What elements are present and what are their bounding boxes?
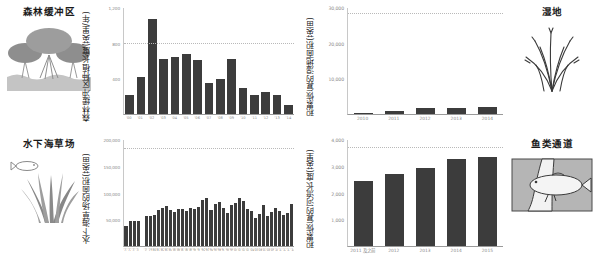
illustration-fish-passage: 鱼类通道 <box>503 132 601 265</box>
y-tick-label: 1,000 <box>331 218 344 223</box>
gridline <box>124 43 294 44</box>
bar-slot <box>192 8 203 114</box>
x-tick-label: 2014 <box>441 247 472 261</box>
panel-forest-buffer: 森林缓冲区 森林缓冲区种植长度(英里/年) <box>0 0 300 133</box>
bar-slot <box>348 140 379 246</box>
bar <box>148 19 157 114</box>
bar-slot <box>135 8 146 114</box>
bar-slot <box>290 140 294 246</box>
x-tick-label: 2012 <box>378 247 409 261</box>
y-tick-label: 30,000 <box>329 6 344 11</box>
x-tick-label: '10 <box>237 115 248 129</box>
bar <box>385 111 404 114</box>
bar <box>125 95 134 114</box>
bar <box>171 57 180 114</box>
x-tick-label: '14 <box>290 247 294 261</box>
bar <box>182 54 191 114</box>
x-tick-label: '09 <box>226 115 237 129</box>
y-axis-title-seagrass: 水下海草场的面积(英亩) <box>76 132 98 265</box>
panel-wetland: 积累恢复的湿地面积(英亩) 10,00020,00030,000 2010201… <box>300 0 601 133</box>
bar-slot <box>410 8 441 114</box>
x-tick-label: '06 <box>191 115 202 129</box>
y-tick-label: 800 <box>112 41 120 46</box>
y-axis-title-forest-buffer: 森林缓冲区种植长度(英里/年) <box>76 0 98 133</box>
bar <box>447 159 466 246</box>
bar-slot <box>260 8 271 114</box>
bar-slot <box>379 8 410 114</box>
y-axis-labels-seagrass: 50,000100,000150,000200,000 <box>98 140 122 247</box>
chart-forest-buffer: 森林缓冲区种植长度(英里/年) 4008001,200 '00'01'02'03… <box>76 0 296 133</box>
illustration-wetland: 湿地 <box>503 0 601 133</box>
x-tick-label: 2012 <box>409 115 440 129</box>
bar <box>354 181 373 246</box>
x-tick-label: '01 <box>134 115 145 129</box>
x-tick-label: 2011 <box>378 115 409 129</box>
x-tick-label: '05 <box>180 115 191 129</box>
y-tick-label: 400 <box>112 77 120 82</box>
y-axis-title-fish-passage: 积累恢复的河流长度(英里) <box>300 132 322 265</box>
y-axis-labels-wetland: 10,00020,00030,000 <box>322 8 346 115</box>
x-tick-label: '14 <box>283 115 294 129</box>
illustration-title-fish-passage: 鱼类通道 <box>503 132 601 149</box>
bar-slot <box>441 8 472 114</box>
y-tick-label: 200,000 <box>103 138 120 143</box>
y-tick-label: 2,000 <box>331 191 344 196</box>
x-tick-label: 2011 及之前 <box>347 247 378 261</box>
gridline <box>124 148 294 149</box>
illustration-title-wetland: 湿地 <box>503 0 601 17</box>
x-tick-label: 2013 <box>409 247 440 261</box>
bar-slot <box>379 140 410 246</box>
bar <box>159 59 168 114</box>
x-axis-labels-wetland: 20102011201220132014 <box>347 115 503 129</box>
bar-slot <box>410 140 441 246</box>
plot-area-fish-passage <box>347 140 503 247</box>
bar <box>416 108 435 114</box>
bar <box>261 92 270 114</box>
infographic-page: 森林缓冲区 森林缓冲区种植长度(英里/年) <box>0 0 601 265</box>
y-tick-label: 1,200 <box>109 6 121 11</box>
bar-slot <box>348 8 379 114</box>
x-tick-label: 2015 <box>472 247 503 261</box>
bar <box>227 59 236 114</box>
plot-area-seagrass <box>123 140 294 247</box>
bar <box>250 95 259 114</box>
bar-slot <box>472 8 503 114</box>
x-axis-labels-seagrass: '71'72'73'74'78'79'80'81'82'83'84'85'86'… <box>123 247 294 261</box>
bar-series-forest-buffer <box>124 8 294 114</box>
bar-slot <box>215 8 226 114</box>
x-tick-label: '11 <box>248 115 259 129</box>
x-tick-label: '12 <box>260 115 271 129</box>
bar <box>273 95 282 114</box>
bar-slot <box>147 8 158 114</box>
x-tick-label: '07 <box>203 115 214 129</box>
bar <box>216 79 225 114</box>
x-tick-label: '03 <box>157 115 168 129</box>
bar-slot <box>124 8 135 114</box>
y-tick-label: 20,000 <box>329 41 344 46</box>
x-tick-label: '08 <box>214 115 225 129</box>
y-tick-label: 50,000 <box>106 218 120 223</box>
y-tick-label: 3,000 <box>331 164 344 169</box>
bar-slot <box>237 8 248 114</box>
bar <box>416 168 435 246</box>
chart-seagrass: 水下海草场的面积(英亩) 50,000100,000150,000200,000… <box>76 132 296 265</box>
y-axis-labels-forest-buffer: 4008001,200 <box>98 8 122 115</box>
x-tick-label: 2014 <box>472 115 503 129</box>
x-axis-labels-fish-passage: 2011 及之前2012201320142015 <box>347 247 503 261</box>
fish-culvert-icon <box>508 153 596 225</box>
bar-slot <box>181 8 192 114</box>
panel-seagrass: 水下海草场 水下海草 <box>0 132 300 265</box>
x-tick-label: '02 <box>146 115 157 129</box>
x-tick-label: '00 <box>123 115 134 129</box>
chart-wetland: 积累恢复的湿地面积(英亩) 10,00020,00030,000 2010201… <box>300 0 505 133</box>
bar-slot <box>169 8 180 114</box>
panel-fish-passage: 积累恢复的河流长度(英里) 1,0002,0003,0004,000 2011 … <box>300 132 601 265</box>
bar-series-wetland <box>348 8 503 114</box>
bar <box>284 105 293 114</box>
chart-fish-passage: 积累恢复的河流长度(英里) 1,0002,0003,0004,000 2011 … <box>300 132 505 265</box>
y-axis-title-wetland: 积累恢复的湿地面积(英亩) <box>300 0 322 133</box>
y-tick-label: 150,000 <box>103 164 120 169</box>
bar <box>354 113 373 114</box>
y-axis-labels-fish-passage: 1,0002,0003,0004,000 <box>322 140 346 247</box>
plot-area-wetland <box>347 8 503 115</box>
